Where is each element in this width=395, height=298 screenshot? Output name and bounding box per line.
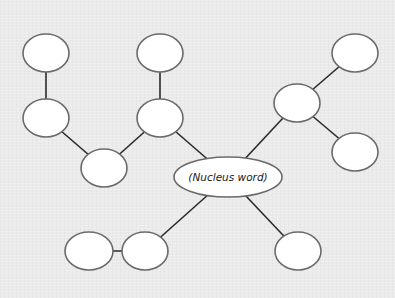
bubble-node [65, 232, 113, 270]
bubble-ellipse [332, 34, 378, 72]
nucleus-node: (Nucleus word) [174, 157, 282, 197]
bubble-node [275, 232, 321, 270]
bubble-node [23, 99, 69, 137]
bubble-map-canvas: (Nucleus word) [0, 0, 395, 298]
bubble-ellipse [274, 84, 320, 122]
bubble-ellipse [65, 232, 113, 270]
nodes-layer [23, 34, 378, 270]
nucleus-label: (Nucleus word) [188, 171, 267, 183]
bubble-node [81, 149, 127, 187]
bubble-ellipse [332, 133, 378, 171]
bubble-node [23, 34, 69, 72]
bubble-node [137, 34, 183, 72]
bubble-node [332, 133, 378, 171]
bubble-node [332, 34, 378, 72]
bubble-ellipse [275, 232, 321, 270]
bubble-map-diagram: (Nucleus word) [0, 0, 395, 298]
bubble-ellipse [137, 34, 183, 72]
bubble-ellipse [81, 149, 127, 187]
bubble-ellipse [23, 34, 69, 72]
bubble-node [122, 232, 168, 270]
bubble-node [137, 99, 183, 137]
bubble-ellipse [23, 99, 69, 137]
bubble-ellipse [137, 99, 183, 137]
bubble-node [274, 84, 320, 122]
bubble-ellipse [122, 232, 168, 270]
